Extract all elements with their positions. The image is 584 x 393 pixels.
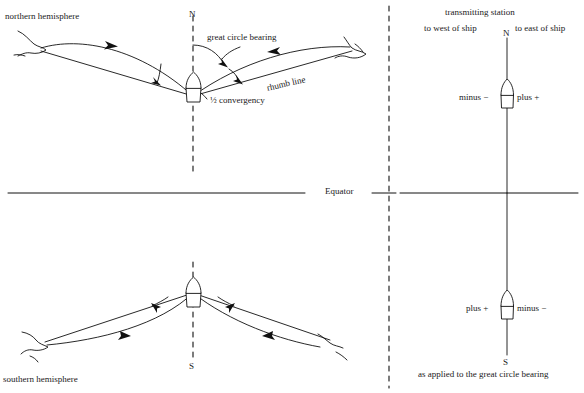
- great-circle-arc-southeast: [193, 293, 320, 347]
- coastline-south-east: [318, 334, 347, 360]
- right-ship-icon-south-bow: [501, 290, 514, 306]
- label-right-south-minus: minus −: [517, 304, 546, 313]
- angle-arc-west: [157, 64, 161, 83]
- arrow-great-circle-northwest: [104, 41, 118, 50]
- arrow-great-circle-northeast: [267, 47, 281, 55]
- label-right-north-plus: plus +: [517, 93, 539, 102]
- label-right-south-cardinal: S: [503, 358, 508, 367]
- label-to-east-of-ship: to east of ship: [515, 24, 565, 33]
- label-right-caption: as applied to the great circle bearing: [418, 370, 548, 379]
- label-great-circle-bearing: great circle bearing: [207, 33, 276, 42]
- arrow-great-circle-southeast: [262, 331, 275, 340]
- label-southern-hemisphere: southern hemisphere: [3, 375, 78, 384]
- label-right-south-plus: plus +: [466, 304, 488, 313]
- label-half-convergency: ½ convergency: [210, 96, 265, 105]
- label-right-north-cardinal: N: [503, 29, 510, 38]
- angle-arc-southwest: [152, 297, 168, 306]
- label-meridian-south: S: [189, 362, 194, 371]
- great-circle-arc-northwest: [41, 44, 193, 96]
- rhumb-line-southeast: [193, 293, 330, 340]
- ship-icon-south-hull: [186, 293, 201, 307]
- label-equator: Equator: [325, 187, 354, 196]
- arrow-great-circle-bearing: [218, 58, 228, 68]
- arrow-great-circle-southwest: [118, 331, 131, 340]
- ship-icon-north-bow: [186, 72, 201, 88]
- right-ship-icon-north-bow: [501, 79, 514, 95]
- right-ship-icon-north-hull: [501, 95, 514, 108]
- coastline-north-west: [14, 31, 46, 56]
- label-to-west-of-ship: to west of ship: [424, 24, 477, 33]
- right-ship-icon-south-hull: [501, 306, 514, 319]
- label-transmitting-station: transmitting station: [445, 8, 515, 17]
- rhumb-line-northwest: [41, 51, 193, 96]
- coastline-south-west: [21, 332, 48, 362]
- great-circle-arc-southwest: [47, 293, 193, 345]
- label-meridian-north: N: [189, 10, 196, 19]
- leader-great-circle-bearing: [222, 47, 240, 59]
- label-northern-hemisphere: northern hemisphere: [5, 12, 79, 21]
- label-right-north-minus: minus −: [459, 93, 488, 102]
- ship-icon-south-bow: [186, 277, 201, 293]
- diagram-canvas: northern hemisphere N great circle beari…: [0, 0, 584, 393]
- angle-arc-great-circle-bearing: [193, 45, 224, 64]
- rhumb-line-southwest: [45, 293, 193, 342]
- ship-icon-north-hull: [186, 88, 201, 102]
- diagram-vector-layer: [0, 0, 584, 393]
